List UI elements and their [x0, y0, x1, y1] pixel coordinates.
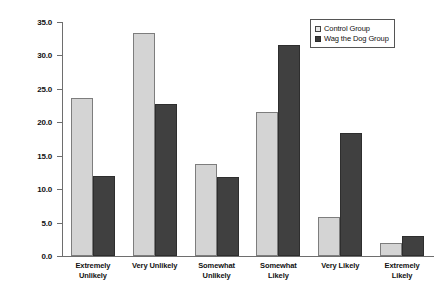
- y-axis-tick: [57, 55, 62, 56]
- legend-label-control: Control Group: [324, 24, 370, 33]
- y-axis-tick: [57, 189, 62, 190]
- bar-group: [124, 22, 186, 256]
- x-axis-tick-label-line: Likely: [371, 271, 433, 281]
- x-axis-tick-label: ExtremelyLikely: [371, 261, 433, 280]
- y-axis-tick-label: 35.0: [12, 18, 52, 27]
- x-axis-tick-label-line: Very Unlikely: [124, 261, 186, 271]
- bar-control: [133, 33, 155, 256]
- y-axis-tick-label: 0.0: [12, 252, 52, 261]
- y-axis-tick: [57, 89, 62, 90]
- x-axis-tick-label-line: Very Likely: [309, 261, 371, 271]
- bar-group: [248, 22, 310, 256]
- x-axis-tick-label-line: Unlikely: [62, 271, 124, 281]
- y-axis-tick-label: 20.0: [12, 118, 52, 127]
- x-axis-tick-label-line: Extremely: [62, 261, 124, 271]
- bar-wag: [155, 104, 177, 256]
- bar-group: [186, 22, 248, 256]
- legend-item-control: Control Group: [315, 24, 389, 33]
- figure: Percent of Respondents 0.05.010.015.020.…: [0, 0, 442, 304]
- bar-wag: [340, 133, 362, 256]
- y-axis-tick: [57, 256, 62, 257]
- y-axis-tick-label: 10.0: [12, 185, 52, 194]
- bar-control: [71, 98, 93, 256]
- bar-group: [62, 22, 124, 256]
- plot-area: Percent of Respondents: [62, 22, 433, 256]
- bar-wag: [402, 236, 424, 256]
- bar-group: [309, 22, 371, 256]
- x-axis-tick-label-line: Extremely: [371, 261, 433, 271]
- bar-control: [195, 164, 217, 256]
- bar-control: [318, 217, 340, 256]
- y-axis-tick-label: 15.0: [12, 151, 52, 160]
- bar-wag: [93, 176, 115, 256]
- x-axis-line: [62, 256, 434, 257]
- y-axis-tick: [57, 122, 62, 123]
- y-axis-tick: [57, 156, 62, 157]
- x-axis-tick-label-line: Likely: [248, 271, 310, 281]
- y-axis-tick: [57, 223, 62, 224]
- x-axis-tick-label: SomewhatLikely: [248, 261, 310, 280]
- legend-label-wag: Wag the Dog Group: [324, 34, 389, 43]
- legend-swatch-control-icon: [315, 26, 321, 32]
- y-axis-tick-label: 25.0: [12, 84, 52, 93]
- bar-control: [256, 112, 278, 256]
- bar-control: [380, 243, 402, 256]
- legend-item-wag: Wag the Dog Group: [315, 34, 389, 43]
- chart-legend: Control Group Wag the Dog Group: [310, 19, 395, 48]
- bar-wag: [278, 45, 300, 256]
- legend-swatch-wag-icon: [315, 36, 321, 42]
- y-axis-tick: [57, 22, 62, 23]
- x-axis-tick-label-line: Somewhat: [186, 261, 248, 271]
- x-axis-tick-label-line: Unlikely: [186, 271, 248, 281]
- bar-wag: [217, 177, 239, 256]
- y-axis-tick-label: 5.0: [12, 218, 52, 227]
- y-axis-tick-label: 30.0: [12, 51, 52, 60]
- x-axis-tick-label: SomewhatUnlikely: [186, 261, 248, 280]
- x-axis-tick-label: Very Unlikely: [124, 261, 186, 271]
- x-axis-tick-label: Very Likely: [309, 261, 371, 271]
- bar-group: [371, 22, 433, 256]
- x-axis-tick-label: ExtremelyUnlikely: [62, 261, 124, 280]
- x-axis-tick-label-line: Somewhat: [248, 261, 310, 271]
